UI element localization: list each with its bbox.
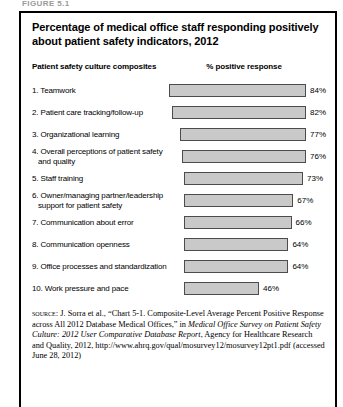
bar-value-label: 46% — [259, 284, 279, 293]
bar-area: 76% — [182, 150, 326, 163]
bar-area: 73% — [184, 172, 326, 185]
bar-chart: 1. Teamwork84%2. Patient care tracking/f… — [32, 80, 326, 299]
source-label: source: — [32, 308, 58, 318]
bar-area: 46% — [184, 282, 326, 295]
bar-row-label-line1: 10. Work pressure and pace — [32, 284, 128, 293]
bar-row-label-line1: 5. Staff training — [32, 174, 83, 183]
bar-area: 64% — [184, 238, 326, 251]
bar-area: 77% — [180, 128, 326, 141]
bar-row-label: 8. Communication openness — [32, 240, 184, 250]
bar-value-label: 76% — [306, 152, 326, 161]
bar-value-label: 84% — [306, 86, 326, 95]
bar — [184, 238, 288, 251]
bar-row-label-line1: 7. Communication about error — [32, 218, 134, 227]
bar-row-label-line1: 2. Patient care tracking/follow-up — [32, 108, 143, 117]
bar-value-label: 64% — [288, 240, 308, 249]
bar-row-label-line1: 9. Office processes and standardization — [32, 262, 167, 271]
bar-row: 10. Work pressure and pace46% — [32, 278, 326, 299]
bar-area: 64% — [184, 260, 326, 273]
bar-value-label: 67% — [293, 196, 313, 205]
bar-row-label: 4. Overall perceptions of patient safety… — [32, 147, 182, 167]
figure-box: Percentage of medical office staff respo… — [19, 11, 337, 407]
bar-row-label: 10. Work pressure and pace — [32, 284, 184, 294]
bar-row-label-line2: and quality — [32, 157, 180, 167]
bar-row: 5. Staff training73% — [32, 168, 326, 189]
bar-row: 2. Patient care tracking/follow-up82% — [32, 102, 326, 123]
bar-row-label-line1: 6. Owner/managing partner/leadership — [32, 191, 163, 200]
column-headers: Patient safety culture composites % posi… — [32, 62, 326, 71]
bar-area: 67% — [184, 194, 326, 207]
bar-row-label: 1. Teamwork — [32, 86, 169, 96]
bar-row-label-line1: 3. Organizational learning — [32, 130, 119, 139]
bar-row: 4. Overall perceptions of patient safety… — [32, 146, 326, 167]
bar — [184, 216, 292, 229]
bar-value-label: 64% — [288, 262, 308, 271]
bar-row: 6. Owner/managing partner/leadershipsupp… — [32, 190, 326, 211]
bar-row: 9. Office processes and standardization6… — [32, 256, 326, 277]
bar-row-label-line1: 4. Overall perceptions of patient safety — [32, 147, 163, 156]
bar — [184, 194, 293, 207]
bar-row: 1. Teamwork84% — [32, 80, 326, 101]
bar-row-label-line1: 1. Teamwork — [32, 86, 76, 95]
bar-row-label: 9. Office processes and standardization — [32, 262, 184, 272]
bar — [169, 84, 306, 97]
header-composites: Patient safety culture composites — [32, 62, 184, 71]
header-positive-response: % positive response — [184, 62, 326, 71]
bar-value-label: 73% — [303, 174, 323, 183]
bar — [182, 150, 306, 163]
bar-area: 66% — [184, 216, 326, 229]
bar-row: 8. Communication openness64% — [32, 234, 326, 255]
bar-row: 7. Communication about error66% — [32, 212, 326, 233]
bar-row-label: 6. Owner/managing partner/leadershipsupp… — [32, 191, 184, 211]
bar-area: 82% — [172, 106, 326, 119]
bar — [184, 282, 259, 295]
chart-title: Percentage of medical office staff respo… — [32, 21, 326, 48]
figure-inner: Percentage of medical office staff respo… — [21, 13, 335, 362]
bar-row-label: 3. Organizational learning — [32, 130, 180, 140]
bar-row-label: 5. Staff training — [32, 174, 184, 184]
bar-row-label-line1: 8. Communication openness — [32, 240, 130, 249]
bar-value-label: 82% — [306, 108, 326, 117]
source-note: source: J. Sorra et al., “Chart 5-1. Com… — [32, 308, 326, 362]
bar-row-label: 2. Patient care tracking/follow-up — [32, 108, 172, 118]
bar-area: 84% — [169, 84, 326, 97]
bar — [184, 260, 288, 273]
bar-row-label: 7. Communication about error — [32, 218, 184, 228]
bar — [180, 128, 306, 141]
bar — [184, 172, 303, 185]
bar — [172, 106, 306, 119]
bar-row-label-line2: support for patient safety — [32, 201, 182, 211]
bar-row: 3. Organizational learning77% — [32, 124, 326, 145]
bar-value-label: 66% — [292, 218, 312, 227]
figure-number-label: FIGURE 5.1 — [22, 0, 70, 7]
bar-value-label: 77% — [306, 130, 326, 139]
